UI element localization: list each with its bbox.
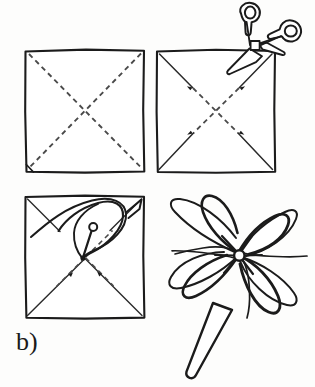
scissors-handle-hole-right: [285, 25, 297, 36]
scissors-pivot-screw: [251, 41, 260, 50]
pinwheel-spoke-w: [215, 255, 235, 256]
panel-3-square-with-folded-corner: b): [16, 196, 144, 356]
panel-2-square-with-cut-lines: [157, 50, 276, 173]
pinwheel-spoke-e: [244, 255, 262, 256]
panel-4-finished-pinwheel: [169, 196, 307, 378]
pinwheel-instruction-diagram: b): [0, 0, 315, 387]
pinwheel-stick: [186, 303, 232, 378]
panel-1-square-with-fold-diagonals: [25, 50, 144, 173]
pin-icon-head: [89, 223, 97, 231]
scissors-handle-hole-left: [245, 7, 256, 19]
pinwheel-center-pin: [234, 250, 244, 260]
pin-icon-point: [80, 255, 85, 260]
step-label-b: b): [16, 327, 38, 356]
figure-root: b): [0, 0, 315, 387]
